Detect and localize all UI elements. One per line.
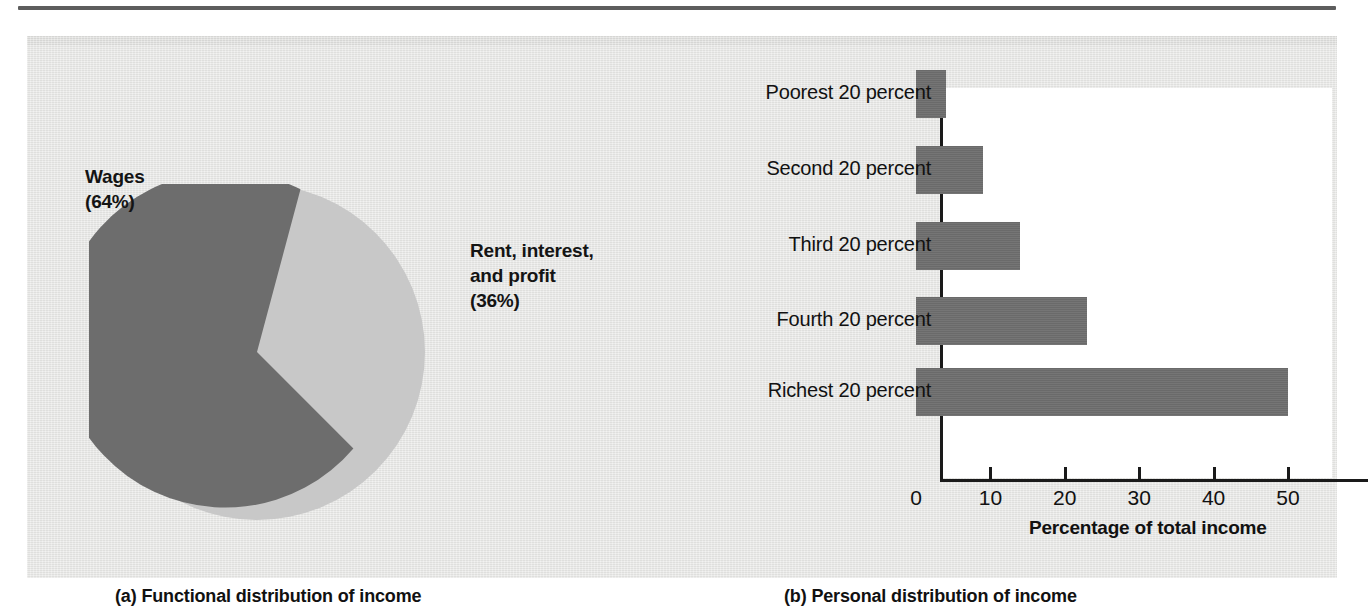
x-tick-label-0: 0: [893, 486, 939, 510]
bar-category-label: Fourth 20 percent: [631, 308, 931, 331]
bar-category-label: Poorest 20 percent: [631, 81, 931, 104]
bar-category-label: Second 20 percent: [631, 157, 931, 180]
bar-rect: [916, 222, 1020, 270]
bar-third-20-percent: [916, 222, 1020, 270]
bar-category-label-wrap: Richest 20 percent: [624, 379, 931, 403]
bar-chart-x-axis: [940, 479, 1368, 482]
bar-category-label-wrap: Poorest 20 percent: [624, 81, 931, 105]
bar-category-label: Richest 20 percent: [631, 379, 931, 402]
x-tick-label-50: 50: [1265, 486, 1311, 510]
bar-chart-x-axis-title: Percentage of total income: [1029, 517, 1267, 539]
figure-panel: Wages (64%) Rent, interest, and profit (…: [27, 36, 1337, 578]
caption-panel-a: (a) Functional distribution of income: [115, 586, 421, 607]
x-tick-mark-40: [1213, 467, 1216, 480]
pie-label-rent-interest-profit: Rent, interest, and profit (36%): [470, 238, 594, 313]
pie-chart-svg: [89, 184, 425, 520]
panel-top-band: [27, 36, 1337, 45]
x-tick-label-10: 10: [967, 486, 1013, 510]
x-tick-mark-50: [1287, 467, 1290, 480]
pie-chart: [89, 184, 425, 520]
bar-category-label-wrap: Second 20 percent: [624, 157, 931, 181]
top-rule: [18, 6, 1336, 10]
bar-category-label-wrap: Fourth 20 percent: [624, 308, 931, 332]
x-tick-label-20: 20: [1042, 486, 1088, 510]
bar-category-label: Third 20 percent: [631, 233, 931, 256]
bar-rect: [916, 368, 1288, 416]
bar-richest-20-percent: [916, 368, 1288, 416]
bar-category-label-wrap: Third 20 percent: [624, 233, 931, 257]
pie-label-wages: Wages (64%): [85, 164, 145, 214]
x-tick-label-30: 30: [1116, 486, 1162, 510]
bar-fourth-20-percent: [916, 297, 1087, 345]
x-tick-mark-20: [1064, 467, 1067, 480]
x-tick-mark-30: [1138, 467, 1141, 480]
x-tick-label-40: 40: [1191, 486, 1237, 510]
bar-chart-plot-area: [941, 88, 1332, 478]
caption-panel-b: (b) Personal distribution of income: [784, 586, 1077, 607]
bar-rect: [916, 297, 1087, 345]
x-tick-mark-10: [989, 467, 992, 480]
